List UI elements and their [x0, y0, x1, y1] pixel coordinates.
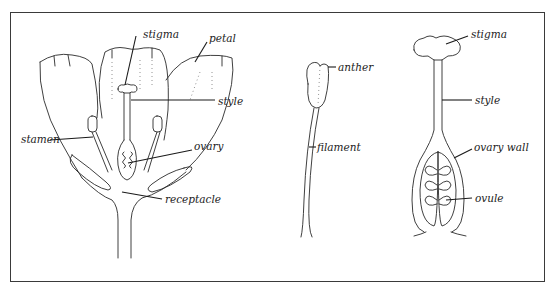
filament-shape — [301, 108, 319, 237]
pistil-stigma — [414, 36, 461, 60]
label-stigma: stigma — [143, 29, 179, 40]
left-petal — [40, 54, 98, 178]
anther-shape — [307, 62, 329, 108]
label-ovary-wall: ovary wall — [474, 142, 529, 153]
right-anther — [153, 116, 162, 132]
center-petal — [99, 48, 168, 141]
center-stigma — [118, 84, 137, 93]
label-ovary: ovary — [194, 141, 223, 152]
center-ovary — [118, 140, 137, 180]
ovary-chamber — [420, 152, 456, 226]
label-petal: petal — [209, 33, 236, 44]
pistil-drawing — [412, 36, 472, 236]
left-sepal — [70, 155, 111, 190]
right-sepal — [148, 167, 192, 192]
label-style: style — [218, 96, 243, 107]
label-receptacle: receptacle — [165, 194, 221, 205]
label-ovule: ovule — [475, 193, 504, 204]
label-pistil-style: style — [475, 95, 500, 106]
label-anther: anther — [338, 62, 373, 73]
left-anther — [88, 116, 97, 132]
flower-diagram — [0, 0, 552, 289]
label-stamen: stamen — [21, 134, 60, 145]
label-filament: filament — [317, 142, 361, 153]
pistil-style — [412, 60, 464, 232]
label-pistil-stigma: stigma — [471, 29, 507, 40]
